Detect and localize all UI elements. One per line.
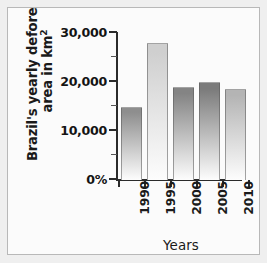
plot-area: 0%10,00020,00030,000 1990199520002005201… (116, 8, 248, 255)
y-tick-minor (111, 154, 117, 156)
y-tick-label: 30,000 (60, 25, 107, 40)
x-tick-label: 1990 (137, 181, 153, 233)
y-tick-major (109, 129, 117, 131)
y-tick-major (109, 31, 117, 33)
x-tick-label: 1995 (163, 181, 179, 233)
bar-1995 (147, 43, 168, 180)
y-tick-major (109, 80, 117, 82)
y-tick-minor (111, 56, 117, 58)
bars-group (118, 8, 248, 180)
y-axis-title: Brazil's yearly deforested area in km2 (25, 7, 55, 161)
y-tick-label: 10,000 (60, 123, 107, 138)
chart-frame: Brazil's yearly deforested area in km2 0… (7, 7, 260, 255)
bar-1990 (121, 107, 142, 181)
x-tick-label: 2005 (215, 181, 231, 233)
y-tick-label: 20,000 (60, 74, 107, 89)
x-axis-title: Years (116, 238, 246, 253)
x-axis-tick-labels: 19901995200020052010 (118, 183, 248, 235)
bar-2000 (173, 87, 194, 180)
chart-figure: Brazil's yearly deforested area in km2 0… (0, 0, 267, 263)
bar-2010 (225, 89, 246, 180)
y-axis-title-line2: area in km2 (40, 7, 55, 161)
x-tick-label: 2010 (241, 181, 257, 233)
y-tick-major (109, 178, 117, 180)
y-axis-title-superscript: 2 (39, 30, 49, 36)
x-tick-label: 2000 (189, 181, 205, 233)
bar-2005 (199, 82, 220, 180)
y-tick-label: 0% (86, 172, 107, 187)
y-tick-minor (111, 105, 117, 107)
